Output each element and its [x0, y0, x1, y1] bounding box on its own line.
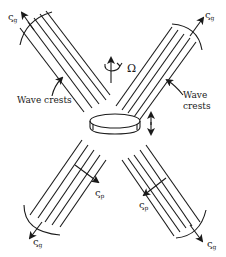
group-velocity-arrow-upper-right	[190, 18, 203, 36]
rotation-circle	[105, 64, 120, 71]
group-velocity-label-upper-left: ςg	[8, 11, 18, 24]
wave-diagram: Ω Wave crests Wave crests ςg ςg ςg ςg ςp…	[0, 0, 226, 257]
phase-velocity-label-lower-right: ςp	[139, 199, 149, 212]
wave-crests-label-right-line1: Wave	[183, 90, 207, 100]
wave-crests-pointer-right	[167, 80, 183, 95]
beam-lower-right	[122, 145, 200, 236]
group-velocity-label-upper-right: ςg	[205, 9, 215, 22]
phase-velocity-arrow-lower-right	[144, 178, 166, 195]
phase-velocity-label-lower-left: ςp	[95, 187, 105, 200]
wavefront-arc-lower-left	[24, 205, 60, 235]
group-velocity-label-lower-left: ςg	[33, 236, 43, 249]
beam-lower-left	[30, 140, 106, 227]
wave-crests-label-left: Wave crests	[17, 95, 72, 105]
wave-crests-label-right-line2: crests	[183, 101, 211, 111]
omega-label: Ω	[127, 62, 136, 75]
group-velocity-label-lower-right: ςg	[207, 238, 217, 251]
wavefront-arc-upper-right	[172, 24, 202, 50]
oscillating-disk	[90, 114, 140, 134]
